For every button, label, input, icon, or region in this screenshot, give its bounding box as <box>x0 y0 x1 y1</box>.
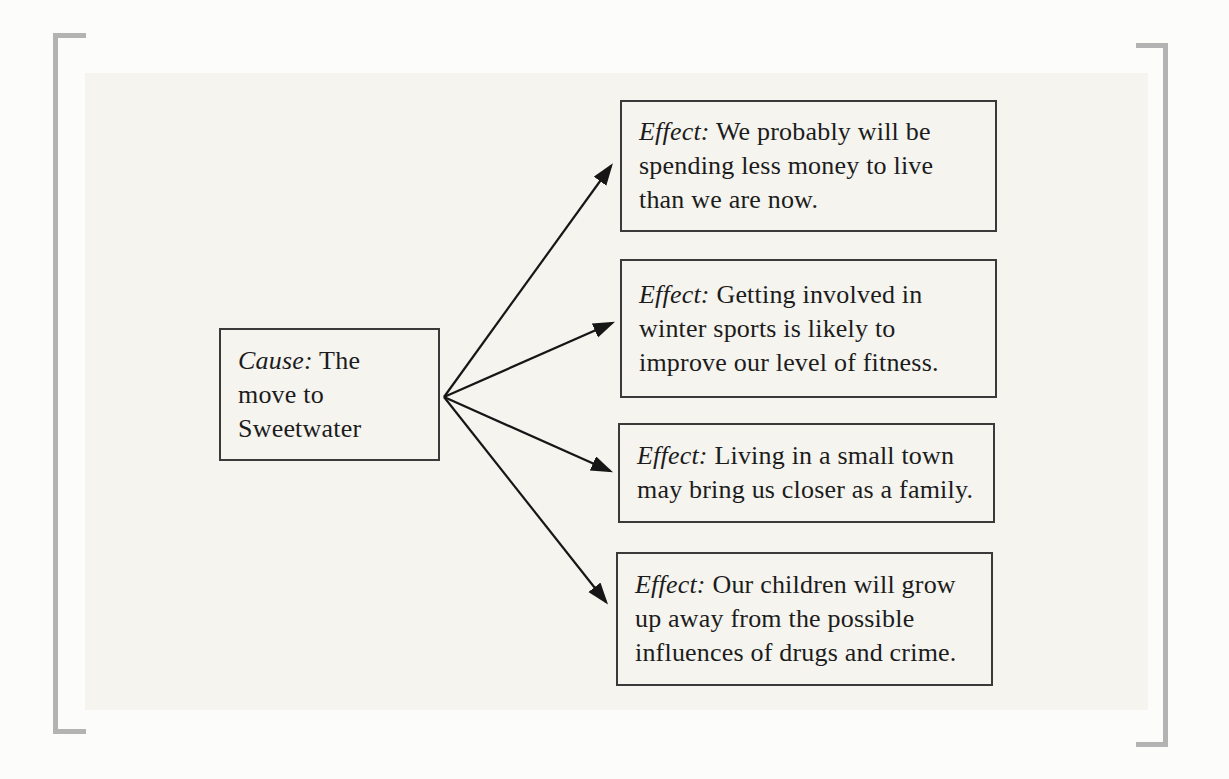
effect-box-4: Effect: Our children will grow up away f… <box>616 552 993 686</box>
effect-2-label: Effect: <box>639 280 710 309</box>
effect-1-label: Effect: <box>639 117 710 146</box>
effect-4-text: Effect: Our children will grow up away f… <box>635 568 977 670</box>
cause-box: Cause: The move to Sweetwater <box>219 328 440 461</box>
effect-4-label: Effect: <box>635 570 706 599</box>
effect-1-text: Effect: We probably will be spending les… <box>639 115 981 217</box>
cause-text: Cause: The move to Sweetwater <box>238 344 424 446</box>
effect-box-1: Effect: We probably will be spending les… <box>620 100 997 232</box>
cause-label: Cause: <box>238 346 313 375</box>
scanned-page: Cause: The move to Sweetwater Effect: We… <box>0 0 1229 779</box>
effect-2-text: Effect: Getting involved in winter sport… <box>639 278 981 380</box>
left-crop-bracket <box>53 33 86 734</box>
effect-3-text: Effect: Living in a small town may bring… <box>637 439 979 507</box>
effect-3-label: Effect: <box>637 441 708 470</box>
effect-box-2: Effect: Getting involved in winter sport… <box>620 259 997 398</box>
effect-box-3: Effect: Living in a small town may bring… <box>618 423 995 523</box>
